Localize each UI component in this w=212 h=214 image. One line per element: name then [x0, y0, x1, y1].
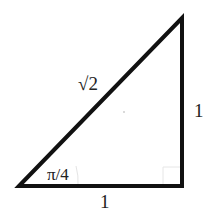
- angle-arc: [76, 166, 78, 186]
- triangle: [19, 18, 182, 186]
- hypotenuse-label: √2: [78, 73, 98, 94]
- triangle-diagram: √2 1 1 π/4: [0, 0, 212, 214]
- angle-label: π/4: [47, 165, 69, 184]
- vertical-leg-label: 1: [194, 100, 204, 121]
- right-angle-marker: [163, 167, 182, 186]
- horizontal-leg-label: 1: [100, 191, 110, 212]
- center-dot: [123, 111, 125, 113]
